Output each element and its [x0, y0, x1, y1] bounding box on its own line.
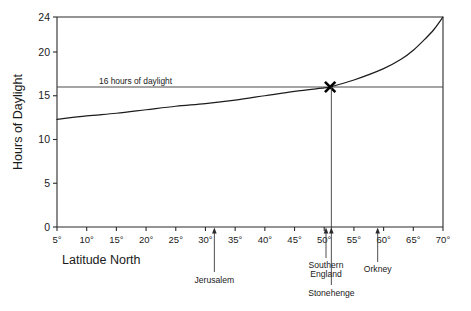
reference-line-group: 16 hours of daylight: [57, 76, 443, 87]
x-tick-label: 50°: [317, 234, 332, 245]
x-tick-label: 40°: [258, 234, 273, 245]
y-tick-label: 15: [38, 89, 50, 101]
x-axis-ticks: 5°10°15°20°25°30°35°40°45°50°55°60°65°70…: [52, 227, 450, 245]
y-axis-ticks: 0510152024: [38, 11, 57, 233]
annotation-arrowhead: [329, 228, 334, 234]
annotation-label: Jerusalem: [195, 275, 235, 285]
annotation-arrows: JerusalemSouthernEnglandStonehengeOrkney: [195, 87, 393, 298]
y-tick-label: 0: [44, 221, 50, 233]
x-tick-label: 20°: [139, 234, 154, 245]
y-tick-label: 5: [44, 177, 50, 189]
daylight-latitude-chart: 0510152024 5°10°15°20°25°30°35°40°45°50°…: [0, 0, 471, 311]
annotation-label: Stonehenge: [308, 288, 355, 298]
x-tick-label: 60°: [376, 234, 391, 245]
x-axis-title: Latitude North: [62, 253, 141, 267]
x-tick-label: 10°: [80, 234, 95, 245]
daylight-curve: [57, 17, 443, 119]
annotation-label: England: [310, 269, 342, 279]
plot-frame: [57, 17, 443, 227]
y-tick-label: 10: [38, 133, 50, 145]
x-tick-label: 65°: [406, 234, 421, 245]
annotation-southern-england: SouthernEngland: [309, 228, 344, 280]
x-tick-label: 35°: [228, 234, 243, 245]
reference-line-label: 16 hours of daylight: [99, 76, 173, 86]
annotation-arrowhead: [375, 228, 380, 234]
x-tick-label: 5°: [52, 234, 61, 245]
annotation-label: Orkney: [364, 264, 392, 274]
y-axis-title: Hours of Daylight: [11, 74, 25, 170]
x-tick-label: 55°: [347, 234, 362, 245]
x-tick-label: 30°: [198, 234, 213, 245]
chart-page: 0510152024 5°10°15°20°25°30°35°40°45°50°…: [0, 0, 471, 311]
y-tick-label: 24: [38, 11, 50, 23]
annotation-arrowhead: [212, 228, 217, 234]
x-tick-label: 70°: [436, 234, 451, 245]
x-tick-label: 25°: [169, 234, 184, 245]
y-tick-label: 20: [38, 46, 50, 58]
x-tick-label: 15°: [109, 234, 124, 245]
x-tick-label: 45°: [287, 234, 302, 245]
